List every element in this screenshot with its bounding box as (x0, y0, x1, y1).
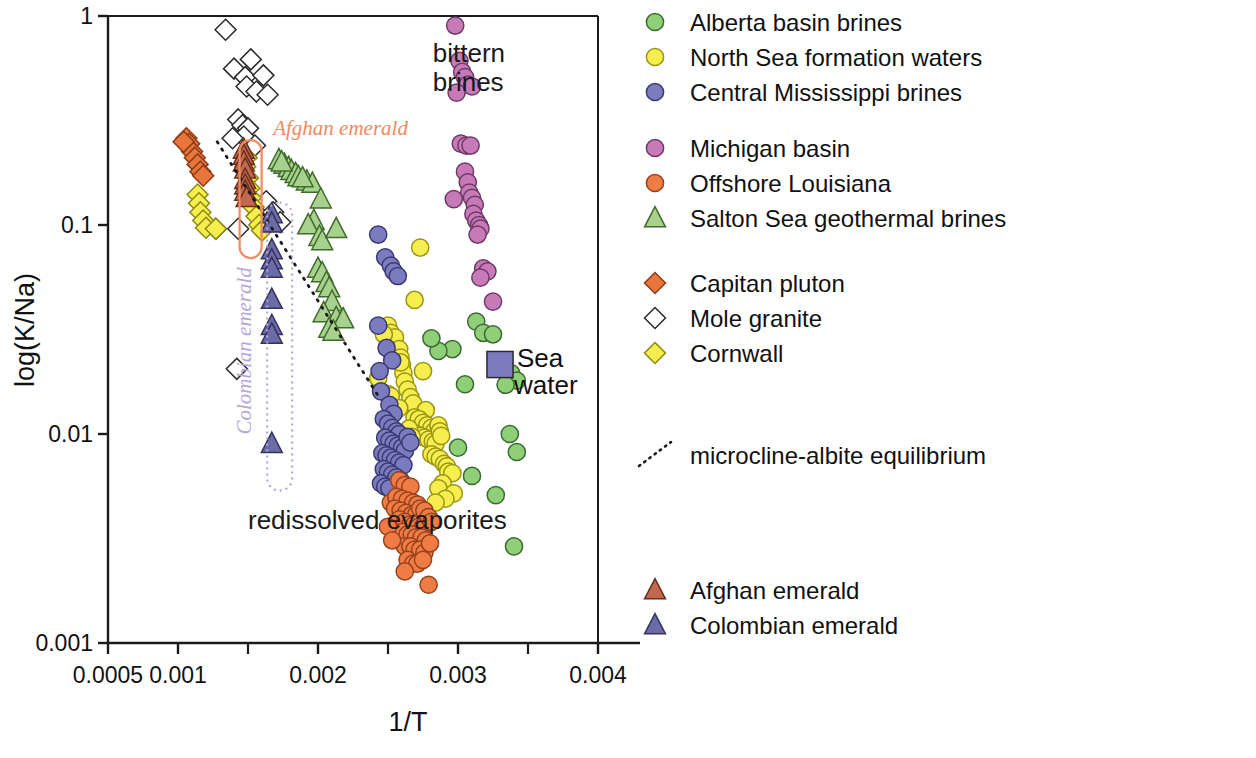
legend-group-1: Michigan basinOffshore LouisianaSalton S… (645, 135, 1007, 232)
legend-label-salton-sea-geothermal-brines[interactable]: Salton Sea geothermal brines (690, 205, 1006, 232)
data-point (414, 362, 431, 379)
data-point (463, 467, 480, 484)
data-point (396, 563, 413, 580)
legend-label-michigan-basin[interactable]: Michigan basin (690, 135, 850, 162)
legend-marker-offshore-louisiana (646, 174, 663, 191)
legend-marker-central-mississippi-brines (646, 83, 663, 100)
data-point (421, 535, 438, 552)
legend-marker-mole-granite (645, 308, 666, 329)
data-point (423, 330, 440, 347)
data-point (497, 376, 514, 393)
data-point (433, 427, 450, 444)
series-sea-water (487, 351, 513, 377)
x-tick-label: 0.002 (289, 662, 347, 688)
legend-label-alberta-basin-brines[interactable]: Alberta basin brines (690, 9, 902, 36)
legend-marker-north-sea-formation-waters (646, 48, 663, 65)
legend-marker-capitan-pluton (645, 273, 666, 294)
x-axis: 0.00050.0010.0020.0030.0041/T (73, 643, 627, 737)
data-point (501, 425, 518, 442)
data-point (449, 439, 466, 456)
data-point (414, 551, 431, 568)
annotation-brines: brines (433, 67, 504, 97)
x-tick-label: 0.003 (429, 662, 487, 688)
data-point (370, 317, 387, 334)
legend-marker-alberta-basin-brines (646, 13, 663, 30)
plot-annotations: bitternbrinesredissolved evaporitesAfgha… (232, 38, 507, 535)
chart-figure: 10.10.010.001log(K/Na)0.00050.0010.0020.… (0, 0, 1256, 758)
legend-label-microcline-albite-equilibrium[interactable]: microcline-albite equilibrium (690, 442, 986, 469)
legend-label-offshore-louisiana[interactable]: Offshore Louisiana (690, 170, 892, 197)
legend-group-3: microcline-albite equilibrium (639, 442, 986, 469)
legend-label-north-sea-formation-waters[interactable]: North Sea formation waters (690, 44, 982, 71)
x-axis-title: 1/T (388, 707, 427, 737)
legend-label-central-mississippi-brines[interactable]: Central Mississippi brines (690, 79, 962, 106)
legend-label-cornwall[interactable]: Cornwall (690, 340, 783, 367)
data-point (472, 269, 489, 286)
data-point (402, 434, 419, 451)
data-point (484, 326, 501, 343)
series-central-mississippi-brines (370, 226, 419, 497)
y-axis: 10.10.010.001log(K/Na) (10, 3, 108, 656)
legend-marker-afghan-emerald (645, 579, 666, 599)
data-point (487, 351, 513, 377)
y-axis-title: log(K/Na) (10, 273, 40, 387)
data-point (505, 538, 522, 555)
legend-marker-michigan-basin (646, 139, 663, 156)
annotation-bittern: bittern (433, 38, 505, 68)
y-tick-label: 1 (80, 3, 93, 29)
scatter-plot-svg: 10.10.010.001log(K/Na)0.00050.0010.0020.… (0, 0, 1256, 758)
seawater-label-line2: water (513, 370, 578, 400)
legend-marker-colombian-emerald (645, 614, 666, 634)
seawater-label-line1: Sea (517, 343, 564, 373)
legend-group-0: Alberta basin brinesNorth Sea formation … (646, 9, 982, 106)
data-point (406, 291, 423, 308)
data-point (487, 487, 504, 504)
data-point (420, 576, 437, 593)
data-point (469, 226, 486, 243)
data-point (215, 19, 236, 40)
data-point (371, 362, 388, 379)
x-tick-label: 0.004 (569, 662, 627, 688)
y-tick-label: 0.001 (35, 630, 93, 656)
annotation-colombian-emerald: Colombian emerald (232, 267, 256, 435)
data-point (462, 137, 479, 154)
legend-label-colombian-emerald[interactable]: Colombian emerald (690, 612, 898, 639)
legend-marker-salton-sea-geothermal-brines (645, 207, 666, 227)
x-tick-label: 0.0005 (73, 662, 143, 688)
series-colombian-emerald (261, 203, 282, 453)
legend-label-afghan-emerald[interactable]: Afghan emerald (690, 577, 859, 604)
annotation-redissolved-evaporites: redissolved evaporites (248, 505, 507, 535)
x-tick-label: 0.001 (149, 662, 207, 688)
legend-group-2: Capitan plutonMole graniteCornwall (645, 270, 845, 367)
data-point (445, 191, 462, 208)
data-point (326, 217, 347, 237)
data-point (389, 267, 406, 284)
legend-label-capitan-pluton[interactable]: Capitan pluton (690, 270, 845, 297)
seawater-label-group: Seawater (513, 343, 578, 400)
legend-marker-microcline-albite-equilibrium (639, 442, 671, 466)
data-point (370, 226, 387, 243)
data-point (261, 432, 282, 452)
y-tick-label: 0.01 (48, 421, 93, 447)
legend-label-mole-granite[interactable]: Mole granite (690, 305, 822, 332)
data-point (261, 288, 282, 308)
series-capitan-pluton (173, 128, 214, 186)
data-point (484, 293, 501, 310)
data-point (447, 17, 464, 34)
legend-group-4: Afghan emeraldColombian emerald (645, 577, 899, 639)
data-point (508, 443, 525, 460)
annotation-afghan-emerald: Afghan emerald (271, 116, 408, 140)
data-point (228, 218, 249, 239)
data-point (412, 239, 429, 256)
y-tick-label: 0.1 (61, 212, 93, 238)
data-point (456, 376, 473, 393)
legend-marker-cornwall (645, 343, 666, 364)
